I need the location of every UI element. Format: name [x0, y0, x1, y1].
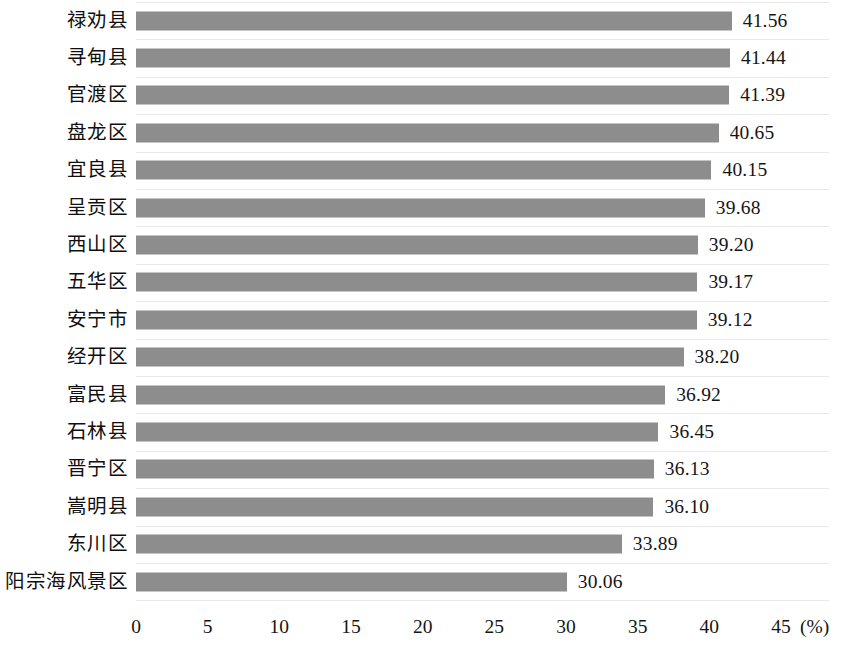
value-label: 41.44	[741, 48, 786, 68]
bar[interactable]	[136, 236, 698, 255]
bar-row: 富民县36.92	[0, 376, 847, 413]
value-label: 39.12	[708, 310, 753, 330]
bar[interactable]	[136, 49, 730, 68]
bar-row: 五华区39.17	[0, 264, 847, 301]
value-label: 30.06	[578, 572, 623, 592]
bar-rows: 禄劝县41.56寻甸县41.44官渡区41.39盘龙区40.65宜良县40.15…	[0, 0, 847, 608]
x-tick-label: 25	[485, 617, 505, 637]
bar[interactable]	[136, 273, 697, 292]
value-label: 36.13	[665, 460, 710, 480]
value-label: 36.10	[664, 497, 709, 517]
x-tick-label: 30	[556, 617, 576, 637]
value-label: 40.15	[722, 161, 767, 181]
plot-area: 禄劝县41.56寻甸县41.44官渡区41.39盘龙区40.65宜良县40.15…	[0, 0, 847, 608]
bar-chart: 禄劝县41.56寻甸县41.44官渡区41.39盘龙区40.65宜良县40.15…	[0, 0, 847, 654]
value-label: 41.56	[743, 11, 788, 31]
bar-row: 东川区33.89	[0, 526, 847, 563]
category-label: 西山区	[67, 235, 129, 255]
x-tick-label: 35	[628, 617, 648, 637]
value-label: 41.39	[740, 86, 785, 106]
bar-row: 盘龙区40.65	[0, 114, 847, 151]
category-label: 禄劝县	[67, 11, 129, 31]
category-label: 经开区	[67, 348, 129, 368]
value-label: 36.45	[669, 422, 714, 442]
bar[interactable]	[136, 86, 729, 105]
bar[interactable]	[136, 161, 711, 180]
bar[interactable]	[136, 385, 665, 404]
bar-row: 安宁市39.12	[0, 301, 847, 338]
bar[interactable]	[136, 535, 622, 554]
category-label: 东川区	[67, 535, 129, 555]
category-label: 嵩明县	[67, 497, 129, 517]
x-tick-label: 20	[413, 617, 433, 637]
x-tick-label: 10	[270, 617, 290, 637]
value-label: 39.20	[709, 235, 754, 255]
bar-row: 经开区38.20	[0, 339, 847, 376]
bar[interactable]	[136, 310, 697, 329]
x-tick-label: 45	[771, 617, 791, 637]
bar[interactable]	[136, 497, 653, 516]
value-label: 39.68	[716, 198, 761, 218]
category-label: 晋宁区	[67, 460, 129, 480]
x-tick-label: 0	[131, 617, 141, 637]
bar[interactable]	[136, 198, 705, 217]
bar[interactable]	[136, 423, 658, 442]
category-label: 阳宗海风景区	[5, 572, 128, 592]
value-label: 38.20	[695, 348, 740, 368]
category-label: 盘龙区	[67, 123, 129, 143]
bar-row: 寻甸县41.44	[0, 39, 847, 76]
value-label: 40.65	[730, 123, 775, 143]
category-label: 宜良县	[67, 161, 129, 181]
category-label: 富民县	[67, 385, 129, 405]
bar-row: 西山区39.20	[0, 226, 847, 263]
category-label: 安宁市	[67, 310, 129, 330]
category-label: 官渡区	[67, 86, 129, 106]
bar[interactable]	[136, 11, 732, 30]
value-label: 33.89	[633, 535, 678, 555]
value-label: 36.92	[676, 385, 721, 405]
category-label: 寻甸县	[67, 48, 129, 68]
bar-row: 官渡区41.39	[0, 77, 847, 114]
x-tick-label: 5	[203, 617, 213, 637]
bar[interactable]	[136, 572, 567, 591]
x-axis: 051015202530354045 (%)	[0, 608, 847, 654]
bar-row: 晋宁区36.13	[0, 451, 847, 488]
bar-row: 呈贡区39.68	[0, 189, 847, 226]
category-label: 五华区	[67, 273, 129, 293]
category-label: 石林县	[67, 422, 129, 442]
bar[interactable]	[136, 123, 719, 142]
value-label: 39.17	[708, 273, 753, 293]
x-tick-label: 40	[700, 617, 720, 637]
bar-row: 禄劝县41.56	[0, 2, 847, 39]
x-axis-unit-label: (%)	[800, 617, 829, 637]
bar-row: 嵩明县36.10	[0, 488, 847, 525]
bar-row: 宜良县40.15	[0, 152, 847, 189]
bar-row: 阳宗海风景区30.06	[0, 563, 847, 600]
bar[interactable]	[136, 460, 654, 479]
bar[interactable]	[136, 348, 684, 367]
bar-row: 石林县36.45	[0, 413, 847, 450]
x-tick-label: 15	[341, 617, 361, 637]
category-label: 呈贡区	[67, 198, 129, 218]
